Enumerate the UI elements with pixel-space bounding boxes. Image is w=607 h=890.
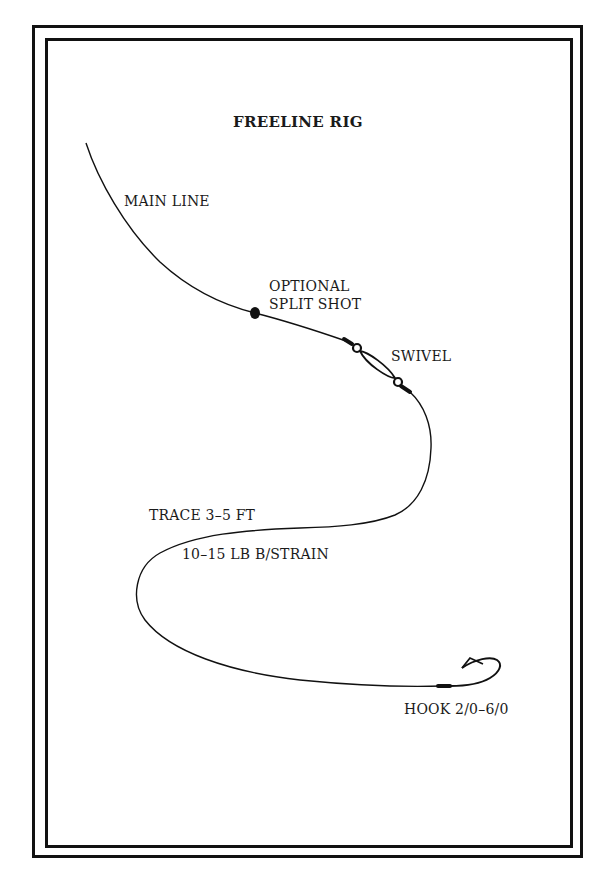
trace-label: TRACE 3–5 FT [149,506,255,524]
rig-diagram [0,0,607,890]
line-to-swivel-path [255,313,346,341]
swivel-label: SWIVEL [391,347,451,365]
split-shot-label-line1: OPTIONAL [269,277,350,295]
hook-label: HOOK 2/0–6/0 [404,700,509,718]
fish-hook-icon [438,658,500,686]
breaking-strain-label: 10–15 LB B/STRAIN [182,545,329,563]
main-line-path [86,143,255,313]
main-line-label: MAIN LINE [124,192,210,210]
diagram-title: FREELINE RIG [233,113,363,131]
trace-line-path [137,392,443,686]
split-shot-label-line2: SPLIT SHOT [269,295,361,313]
